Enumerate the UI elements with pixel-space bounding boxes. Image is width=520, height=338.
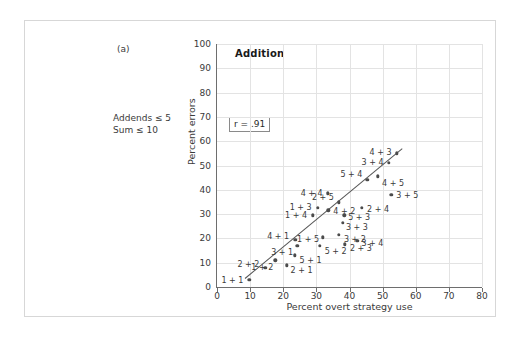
x-tick-label: 0 — [204, 291, 230, 301]
y-tick-label: 20 — [185, 233, 211, 243]
data-point — [395, 152, 398, 155]
x-tick-label: 80 — [469, 291, 495, 301]
data-point — [366, 178, 369, 181]
data-point — [274, 259, 277, 262]
y-tick-label: 30 — [185, 209, 211, 219]
plot-title: Addition — [235, 48, 284, 59]
data-point-label: 2 + 4 — [367, 205, 389, 214]
y-gridline — [217, 44, 482, 45]
x-tick-label: 10 — [237, 291, 263, 301]
data-point — [285, 263, 288, 266]
y-tick-label: 90 — [185, 63, 211, 73]
data-point-label: 1 + 5 — [297, 235, 319, 244]
y-axis-title: Percent errors — [186, 98, 197, 165]
data-point-label: 4 + 5 — [382, 179, 404, 188]
x-tick-label: 20 — [270, 291, 296, 301]
data-point-label: 5 + 2 — [325, 246, 347, 255]
data-point-label: 1 + 1 — [221, 275, 243, 284]
data-point-label: 3 + 5 — [396, 190, 418, 199]
data-point-label: 1 + 4 — [285, 211, 307, 220]
data-point-label: 5 + 1 — [300, 256, 322, 265]
y-tick-label: 80 — [185, 88, 211, 98]
x-axis-line — [216, 287, 482, 288]
data-point — [341, 221, 344, 224]
data-point — [295, 244, 298, 247]
y-tick-label: 70 — [185, 112, 211, 122]
data-point — [327, 209, 330, 212]
data-point — [337, 233, 340, 236]
data-point — [311, 214, 314, 217]
figure-part-label: (a) — [117, 44, 130, 54]
data-point-label: 5 + 3 — [348, 213, 370, 222]
y-gridline — [217, 68, 482, 69]
y-axis-line — [216, 44, 217, 287]
data-point-label: 1 + 3 — [290, 203, 312, 212]
data-point — [318, 244, 321, 247]
data-point-label: 4 + 1 — [267, 231, 289, 240]
x-gridline — [482, 44, 483, 287]
data-point-label: 4 + 3 — [370, 148, 392, 157]
data-point — [390, 193, 393, 196]
figure-root: (a) Addends ≤ 5 Sum ≤ 10 Percent errors … — [0, 0, 520, 338]
y-tick-label: 40 — [185, 185, 211, 195]
y-tick-label: 0 — [185, 282, 211, 292]
figure-note-sum: Sum ≤ 10 — [113, 124, 158, 136]
y-gridline — [217, 141, 482, 142]
data-point-label: 3 + 1 — [271, 247, 293, 256]
y-gridline — [217, 93, 482, 94]
data-point — [293, 254, 296, 257]
y-gridline — [217, 166, 482, 167]
figure-note-addends: Addends ≤ 5 — [113, 112, 171, 124]
data-point-label: 3 + 4 — [361, 238, 383, 247]
data-point-label: 2 + 5 — [312, 193, 334, 202]
scatter-plot-area: Addition r = .91 01020304050607080010203… — [217, 44, 482, 287]
y-tick-label: 60 — [185, 136, 211, 146]
data-point-label: 5 + 4 — [340, 170, 362, 179]
y-tick-label: 100 — [185, 39, 211, 49]
data-point-label: 3 + 4 — [362, 158, 384, 167]
x-tick-label: 50 — [370, 291, 396, 301]
data-point — [360, 206, 363, 209]
x-axis-title: Percent overt strategy use — [217, 301, 482, 312]
y-tick-label: 10 — [185, 258, 211, 268]
data-point — [387, 161, 390, 164]
x-tick-label: 30 — [303, 291, 329, 301]
data-point-label: 3 + 3 — [346, 222, 368, 231]
data-point — [316, 206, 319, 209]
y-tick-label: 50 — [185, 161, 211, 171]
data-point-label: 2 + 1 — [291, 266, 313, 275]
data-point — [376, 175, 379, 178]
data-point-label: 1 + 2 — [251, 263, 273, 272]
x-tick-label: 40 — [337, 291, 363, 301]
x-tick-label: 70 — [436, 291, 462, 301]
x-tick-label: 60 — [403, 291, 429, 301]
data-point — [337, 201, 340, 204]
y-gridline — [217, 117, 482, 118]
data-point — [342, 214, 345, 217]
